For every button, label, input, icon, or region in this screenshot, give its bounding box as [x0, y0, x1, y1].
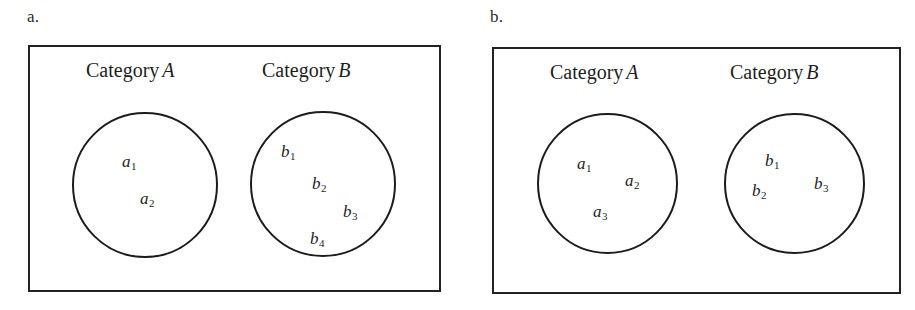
panel-b-letter: b.: [490, 8, 503, 25]
panel-a-category-b-label: CategoryB: [262, 60, 351, 80]
member-subscript: 3: [352, 210, 358, 222]
panel-a-member-b3: b3: [343, 203, 358, 220]
panel-a-member-a2: a2: [140, 190, 155, 207]
member-subscript: 2: [634, 179, 640, 191]
panel-b-category-a-prefix: Category: [550, 61, 623, 83]
member-symbol: b: [343, 202, 352, 221]
panel-a: a. CategoryA CategoryB a1 a2 b1 b2 b3 b4: [0, 0, 460, 310]
panel-a-category-b-letter: B: [335, 59, 350, 81]
member-subscript: 1: [290, 150, 296, 162]
member-subscript: 2: [149, 197, 155, 209]
member-symbol: b: [765, 151, 774, 170]
member-subscript: 2: [761, 189, 767, 201]
member-subscript: 1: [586, 162, 592, 174]
venn-diagram-figure: a. CategoryA CategoryB a1 a2 b1 b2 b3 b4…: [0, 0, 915, 310]
member-subscript: 3: [602, 210, 608, 222]
member-symbol: a: [122, 152, 131, 171]
panel-a-category-b-prefix: Category: [262, 59, 335, 81]
panel-b-category-b-label: CategoryB: [730, 62, 819, 82]
panel-b-member-b3: b3: [814, 175, 829, 192]
panel-b-category-a-label: CategoryA: [550, 62, 639, 82]
panel-a-member-b2: b2: [312, 175, 327, 192]
member-symbol: b: [310, 229, 319, 248]
member-subscript: 4: [319, 237, 325, 249]
panel-a-set-circle-a: [72, 112, 218, 258]
panel-b-category-a-letter: A: [623, 61, 638, 83]
panel-a-category-a-prefix: Category: [86, 59, 159, 81]
panel-a-member-b4: b4: [310, 230, 325, 247]
panel-a-category-a-letter: A: [159, 59, 174, 81]
member-subscript: 1: [774, 159, 780, 171]
member-symbol: b: [814, 174, 823, 193]
member-symbol: b: [752, 181, 761, 200]
member-subscript: 2: [321, 182, 327, 194]
panel-b-set-circle-b: [724, 113, 865, 254]
panel-b-member-b1: b1: [765, 152, 780, 169]
panel-b-member-a1: a1: [577, 155, 592, 172]
member-symbol: a: [577, 154, 586, 173]
panel-b-set-circle-a: [537, 113, 678, 254]
panel-a-letter: a.: [27, 8, 39, 25]
member-subscript: 3: [823, 182, 829, 194]
panel-b: b. CategoryA CategoryB a1 a2 a3 b1 b2 b3: [460, 0, 915, 310]
panel-b-category-b-letter: B: [803, 61, 818, 83]
member-symbol: a: [625, 171, 634, 190]
panel-b-member-a2: a2: [625, 172, 640, 189]
member-symbol: b: [281, 142, 290, 161]
panel-a-member-a1: a1: [122, 153, 137, 170]
member-subscript: 1: [131, 160, 137, 172]
panel-b-member-b2: b2: [752, 182, 767, 199]
member-symbol: a: [593, 202, 602, 221]
member-symbol: a: [140, 189, 149, 208]
panel-a-member-b1: b1: [281, 143, 296, 160]
panel-b-category-b-prefix: Category: [730, 61, 803, 83]
member-symbol: b: [312, 174, 321, 193]
panel-a-category-a-label: CategoryA: [86, 60, 175, 80]
panel-b-member-a3: a3: [593, 203, 608, 220]
